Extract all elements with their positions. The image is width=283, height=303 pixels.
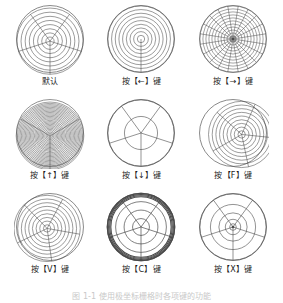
figure-cell-key-c: 按【C】键 [96, 191, 188, 285]
figure-cell-right-arrow: 按【→】键 [187, 3, 279, 97]
polar-diagram-key-c [105, 191, 177, 263]
polar-diagram-default [14, 3, 86, 75]
figure-cell-key-f: 按【F】键 [187, 97, 279, 191]
figure-cell-caption: 按【X】键 [214, 264, 252, 275]
figure-cell-key-v: 按【V】键 [4, 191, 96, 285]
figure-caption: 图 1-1 使用极坐标栅格时各项键的功能 [0, 292, 283, 302]
polar-diagram-key-v [14, 191, 86, 263]
figure-cell-caption: 按【↑】键 [30, 170, 70, 181]
figure-cell-caption: 按【V】键 [31, 264, 69, 275]
figure-cell-left-arrow: 按【←】键 [96, 3, 188, 97]
figure-cell-caption: 按【C】键 [122, 264, 161, 275]
figure-cell-default: 默认 [4, 3, 96, 97]
figure-cell-caption: 默认 [42, 76, 58, 87]
figure-cell-caption: 按【→】键 [213, 76, 253, 87]
polar-diagram-left-arrow [105, 3, 177, 75]
figure-cell-up-arrow: 按【↑】键 [4, 97, 96, 191]
polar-diagram-down-arrow [105, 97, 177, 169]
figure-cell-caption: 按【↓】键 [122, 170, 162, 181]
polar-diagram-key-x [197, 191, 269, 263]
figure-cell-key-x: 按【X】键 [187, 191, 279, 285]
figure-cell-caption: 按【F】键 [214, 170, 252, 181]
polar-diagram-right-arrow [197, 3, 269, 75]
figure-cell-caption: 按【←】键 [122, 76, 162, 87]
figure-cell-down-arrow: 按【↓】键 [96, 97, 188, 191]
polar-grid-figure-panel: 默认 按【←】键 按【→】键 按【↑】键 按【↓】键 按【F】键 按【V】键 按… [0, 0, 283, 285]
polar-diagram-up-arrow [14, 97, 86, 169]
polar-diagram-key-f [197, 97, 269, 169]
